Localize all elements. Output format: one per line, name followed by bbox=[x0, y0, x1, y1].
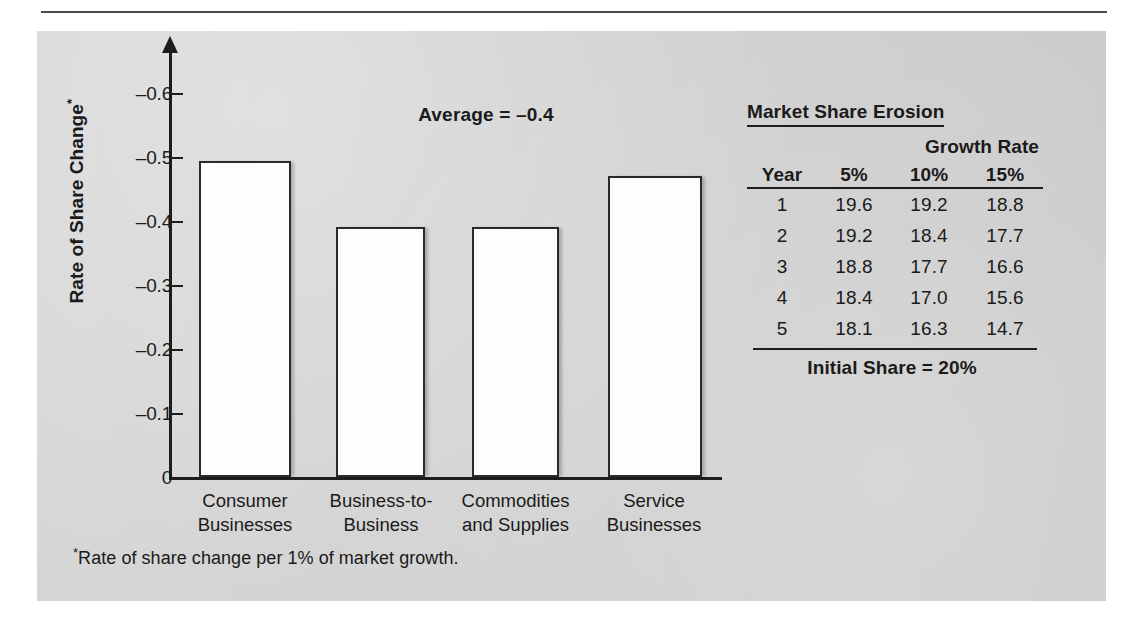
x-label-line: Business bbox=[319, 513, 443, 537]
y-tick-label: –0.3 bbox=[110, 276, 172, 295]
table-cell-year: 5 bbox=[747, 313, 817, 344]
x-label-line: Businesses bbox=[185, 513, 305, 537]
y-tick-mark bbox=[172, 349, 183, 351]
table-group-header: Growth Rate bbox=[747, 136, 1047, 158]
table-cell-10pct: 18.4 bbox=[891, 220, 967, 251]
table-cell-15pct: 18.8 bbox=[967, 188, 1043, 220]
y-tick-label: –0.1 bbox=[110, 404, 172, 423]
table-row: 4 18.4 17.0 15.6 bbox=[747, 282, 1043, 313]
table-cell-5pct: 18.4 bbox=[817, 282, 891, 313]
x-label-line: Consumer bbox=[185, 489, 305, 513]
x-label-line: Commodities bbox=[450, 489, 581, 513]
x-label-commodities-and-supplies: Commodities and Supplies bbox=[450, 489, 581, 537]
y-axis-title: Rate of Share Change* bbox=[64, 71, 88, 331]
table-cell-15pct: 15.6 bbox=[967, 282, 1043, 313]
y-tick-mark bbox=[172, 157, 183, 159]
y-tick-mark bbox=[172, 221, 183, 223]
table-col-header-15pct: 15% bbox=[967, 164, 1043, 188]
table-cell-5pct: 18.8 bbox=[817, 251, 891, 282]
x-label-consumer-businesses: Consumer Businesses bbox=[185, 489, 305, 537]
market-share-erosion-table: Market Share Erosion Growth Rate Year 5%… bbox=[747, 101, 1047, 379]
table-cell-10pct: 17.7 bbox=[891, 251, 967, 282]
table-title: Market Share Erosion bbox=[747, 101, 944, 127]
table-cell-15pct: 14.7 bbox=[967, 313, 1043, 344]
y-tick-label: –0.2 bbox=[110, 340, 172, 359]
y-tick-label: –0.5 bbox=[110, 148, 172, 167]
table-cell-year: 4 bbox=[747, 282, 817, 313]
table-cell-5pct: 19.2 bbox=[817, 220, 891, 251]
table-header-row: Year 5% 10% 15% bbox=[747, 164, 1043, 188]
table-row: 3 18.8 17.7 16.6 bbox=[747, 251, 1043, 282]
table-cell-year: 2 bbox=[747, 220, 817, 251]
bar-commodities-and-supplies bbox=[472, 227, 559, 477]
y-tick-mark bbox=[172, 413, 183, 415]
table-cell-10pct: 16.3 bbox=[891, 313, 967, 344]
y-tick-label: 0 bbox=[110, 468, 172, 487]
bar-business-to-business bbox=[336, 227, 425, 477]
table-col-header-5pct: 5% bbox=[817, 164, 891, 188]
table-row: 5 18.1 16.3 14.7 bbox=[747, 313, 1043, 344]
table-cell-10pct: 17.0 bbox=[891, 282, 967, 313]
x-label-line: Businesses bbox=[594, 513, 714, 537]
average-annotation: Average = –0.4 bbox=[346, 104, 626, 126]
chart-footnote: *Rate of share change per 1% of market g… bbox=[73, 545, 459, 569]
table-footer-note: Initial Share = 20% bbox=[747, 357, 1037, 379]
figure-panel: Rate of Share Change* –0.6 –0.5 –0.4 –0.… bbox=[37, 31, 1106, 601]
y-tick-mark bbox=[172, 93, 183, 95]
x-label-line: Service bbox=[594, 489, 714, 513]
table-cell-15pct: 16.6 bbox=[967, 251, 1043, 282]
table-cell-10pct: 19.2 bbox=[891, 188, 967, 220]
x-label-service-businesses: Service Businesses bbox=[594, 489, 714, 537]
table-footer-rule bbox=[753, 348, 1037, 350]
y-tick-label: –0.4 bbox=[110, 212, 172, 231]
x-label-line: Business-to- bbox=[319, 489, 443, 513]
header-rule bbox=[41, 11, 1107, 13]
table-cell-year: 1 bbox=[747, 188, 817, 220]
y-axis-arrow-icon bbox=[162, 36, 178, 53]
x-label-line: and Supplies bbox=[450, 513, 581, 537]
y-tick-label: –0.6 bbox=[110, 84, 172, 103]
table-cell-year: 3 bbox=[747, 251, 817, 282]
bar-consumer-businesses bbox=[199, 161, 291, 477]
y-tick-mark bbox=[172, 285, 183, 287]
table-col-header-10pct: 10% bbox=[891, 164, 967, 188]
table-row: 1 19.6 19.2 18.8 bbox=[747, 188, 1043, 220]
table-col-header-year: Year bbox=[747, 164, 817, 188]
x-label-business-to-business: Business-to- Business bbox=[319, 489, 443, 537]
table-cell-5pct: 18.1 bbox=[817, 313, 891, 344]
x-axis-line bbox=[169, 477, 722, 480]
table-row: 2 19.2 18.4 17.7 bbox=[747, 220, 1043, 251]
table-cell-15pct: 17.7 bbox=[967, 220, 1043, 251]
table-cell-5pct: 19.6 bbox=[817, 188, 891, 220]
bar-service-businesses bbox=[608, 176, 702, 477]
footnote-text: Rate of share change per 1% of market gr… bbox=[78, 548, 458, 568]
table-body: Year 5% 10% 15% 1 19.6 19.2 18.8 2 19.2 … bbox=[747, 164, 1043, 344]
